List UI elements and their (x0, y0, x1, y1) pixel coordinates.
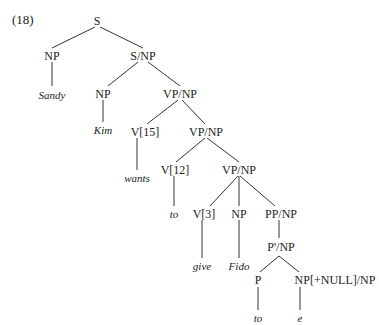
syntax-tree: (18) S NP Sandy S/NP NP Kim VP/NP V[15] … (0, 0, 379, 325)
node-np-null-slash-np: NP[+NULL]/NP (295, 274, 376, 286)
leaf-fido: Fido (229, 260, 250, 272)
node-v12: V[12] (161, 164, 190, 176)
leaf-to-2: to (254, 312, 263, 324)
leaf-kim: Kim (94, 124, 112, 136)
node-s: S (94, 15, 101, 27)
example-number: (18) (12, 12, 34, 28)
leaf-give: give (193, 260, 211, 272)
node-p: P (255, 274, 262, 286)
leaf-e: e (298, 312, 303, 324)
node-np-kim: NP (95, 88, 110, 100)
node-np-subject: NP (44, 50, 59, 62)
node-np-fido: NP (231, 208, 246, 220)
node-pbar-slash-np: P'/NP (267, 241, 295, 253)
leaf-to-1: to (170, 208, 179, 220)
node-pp-slash-np: PP/NP (265, 208, 297, 220)
node-v15: V[15] (131, 126, 160, 138)
node-vp-slash-np-1: VP/NP (163, 88, 197, 100)
leaf-sandy: Sandy (39, 89, 66, 101)
node-s-slash-np: S/NP (130, 50, 155, 62)
node-vp-slash-np-2: VP/NP (189, 126, 223, 138)
node-vp-slash-np-3: VP/NP (222, 164, 256, 176)
node-v3: V[3] (193, 208, 216, 220)
leaf-wants: wants (124, 172, 150, 184)
